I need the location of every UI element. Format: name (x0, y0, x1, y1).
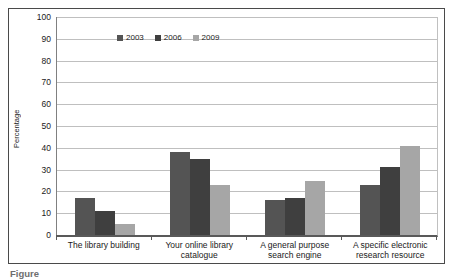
x-category-label: A specific electronic research resource (343, 241, 439, 260)
y-tick-label: 30 (29, 165, 51, 175)
x-axis-category-labels: The library buildingYour online library … (56, 241, 438, 260)
y-tick-label: 80 (29, 56, 51, 66)
y-tick-label: 40 (29, 143, 51, 153)
y-tick-label: 0 (29, 230, 51, 240)
bar-groups (57, 17, 437, 235)
legend-marker-icon (193, 35, 199, 41)
y-tick-label: 20 (29, 186, 51, 196)
x-axis-tick (56, 235, 57, 240)
legend: 200320062009 (117, 33, 219, 42)
y-axis-title: Percentage (12, 69, 21, 189)
legend-item: 2003 (117, 33, 144, 42)
y-tick-label: 10 (29, 208, 51, 218)
y-tick-label: 100 (29, 12, 51, 22)
bar-group (247, 17, 342, 235)
x-category-label: Your online library catalogue (152, 241, 248, 260)
legend-label: 2009 (202, 33, 220, 42)
plot-area: 200320062009 (56, 17, 438, 237)
legend-label: 2006 (164, 33, 182, 42)
bar-2006 (190, 159, 210, 235)
figure-caption-clipped: Figure (10, 268, 39, 279)
bar-group (342, 17, 437, 235)
y-tick-label: 70 (29, 77, 51, 87)
bar-2003 (265, 200, 285, 235)
legend-marker-icon (155, 35, 161, 41)
x-axis-tick (151, 235, 152, 240)
x-category-label: A general purpose search engine (247, 241, 343, 260)
legend-marker-icon (117, 35, 123, 41)
legend-label: 2003 (126, 33, 144, 42)
legend-item: 2009 (193, 33, 220, 42)
y-tick-label: 50 (29, 121, 51, 131)
bar-2003 (360, 185, 380, 235)
bar-2003 (170, 152, 190, 235)
x-axis-tick (341, 235, 342, 240)
bar-2009 (115, 224, 135, 235)
bar-2009 (400, 146, 420, 235)
x-axis-tick (246, 235, 247, 240)
bar-2006 (380, 167, 400, 235)
chart-figure: Percentage 0102030405060708090100 200320… (8, 8, 445, 264)
x-axis-tick (436, 235, 437, 240)
bar-2009 (210, 185, 230, 235)
bar-2003 (75, 198, 95, 235)
y-tick-label: 90 (29, 34, 51, 44)
bar-group (152, 17, 247, 235)
bar-group (57, 17, 152, 235)
bar-2006 (95, 211, 115, 235)
x-category-label: The library building (56, 241, 152, 260)
legend-item: 2006 (155, 33, 182, 42)
y-tick-label: 60 (29, 99, 51, 109)
bar-2006 (285, 198, 305, 235)
bar-2009 (305, 181, 325, 236)
